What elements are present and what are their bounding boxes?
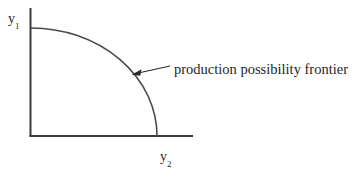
x-axis-label: y2 [160, 150, 172, 167]
ppf-figure: y1 y2 production possibility frontier [0, 0, 356, 178]
x-axis-label-text: y [160, 149, 167, 164]
ppf-diagram-canvas [0, 0, 356, 178]
y-axis-label: y1 [8, 12, 20, 29]
x-axis-label-subscript: 2 [167, 159, 172, 169]
ppf-annotation-label: production possibility frontier [174, 62, 348, 78]
y-axis-label-subscript: 1 [15, 21, 20, 31]
production-possibility-frontier-curve [31, 28, 157, 136]
y-axis-label-text: y [8, 11, 15, 26]
